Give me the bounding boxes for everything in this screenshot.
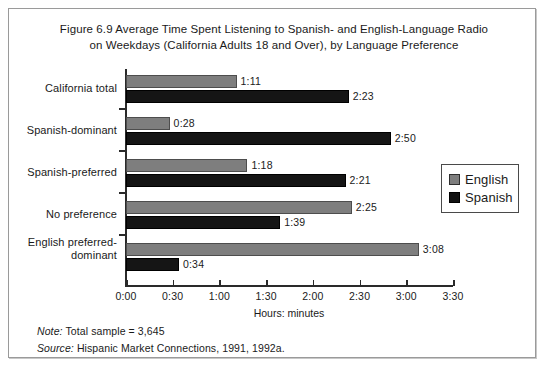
category-label: Spanish-dominant: [0, 124, 117, 137]
x-axis-tick: [219, 280, 221, 286]
chart-plot-area: California totalSpanish-dominantSpanish-…: [9, 9, 537, 359]
category-label: English preferred-dominant: [0, 236, 117, 262]
bar-english: [126, 117, 170, 130]
category-label: California total: [0, 82, 117, 95]
legend-swatch-english-icon: [449, 174, 460, 185]
note-footnote: Note: Total sample = 3,645: [37, 325, 165, 337]
bar-value-label: 1:11: [241, 75, 261, 88]
category-label: Spanish-preferred: [0, 166, 117, 179]
legend-item-spanish: Spanish: [449, 188, 512, 206]
x-axis-tick-label: 2:30: [340, 290, 380, 302]
bar-value-label: 1:18: [251, 159, 272, 172]
x-axis-tick-label: 1:30: [246, 290, 286, 302]
bar-value-label: 2:21: [350, 174, 371, 187]
bar-value-label: 2:23: [353, 90, 374, 103]
x-axis-tick-label: 0:30: [153, 290, 193, 302]
legend-item-english: English: [449, 170, 512, 188]
y-axis-tick: [119, 234, 126, 236]
y-axis-tick: [119, 150, 126, 152]
x-axis-tick-label: 1:00: [199, 290, 239, 302]
x-axis-tick-label: 2:00: [293, 290, 333, 302]
x-axis-tick: [406, 280, 408, 286]
bar-value-label: 0:28: [174, 117, 195, 130]
legend-swatch-spanish-icon: [449, 192, 460, 203]
y-axis-tick: [119, 192, 126, 194]
x-axis-tick: [313, 280, 315, 286]
bar-value-label: 0:34: [183, 258, 204, 271]
x-axis-tick-label: 3:00: [386, 290, 426, 302]
bar-spanish: [126, 258, 179, 271]
note-label: Note:: [37, 325, 63, 337]
source-label: Source:: [37, 342, 74, 354]
x-axis-tick-label: 0:00: [106, 290, 146, 302]
bar-spanish: [126, 216, 280, 229]
x-axis-tick: [453, 280, 455, 286]
bar-english: [126, 201, 352, 214]
bar-english: [126, 75, 237, 88]
legend-label-english: English: [465, 172, 508, 187]
x-axis-tick: [360, 280, 362, 286]
source-footnote: Source: Hispanic Market Connections, 199…: [37, 342, 285, 354]
bar-english: [126, 159, 247, 172]
chart-legend: English Spanish: [441, 164, 519, 213]
x-axis-title: Hours: minutes: [125, 307, 453, 319]
bar-value-label: 1:39: [284, 216, 305, 229]
note-value: Total sample = 3,645: [63, 325, 165, 337]
category-label: No preference: [0, 208, 117, 221]
category-label-line: dominant: [0, 249, 117, 262]
source-value: Hispanic Market Connections, 1991, 1992a…: [74, 342, 285, 354]
bar-spanish: [126, 90, 349, 103]
bar-value-label: 2:50: [395, 132, 416, 145]
bar-spanish: [126, 174, 346, 187]
legend-label-spanish: Spanish: [465, 190, 513, 205]
bar-english: [126, 243, 419, 256]
figure-frame: Figure 6.9 Average Time Spent Listening …: [8, 8, 536, 358]
x-axis-tick-label: 3:30: [433, 290, 473, 302]
category-label-line: English preferred-: [0, 236, 117, 249]
x-axis-tick: [126, 280, 128, 286]
bar-value-label: 2:25: [356, 201, 377, 214]
x-axis-tick: [266, 280, 268, 286]
bar-spanish: [126, 132, 391, 145]
bar-value-label: 3:08: [423, 243, 444, 256]
y-axis-tick: [119, 108, 126, 110]
x-axis-tick: [173, 280, 175, 286]
